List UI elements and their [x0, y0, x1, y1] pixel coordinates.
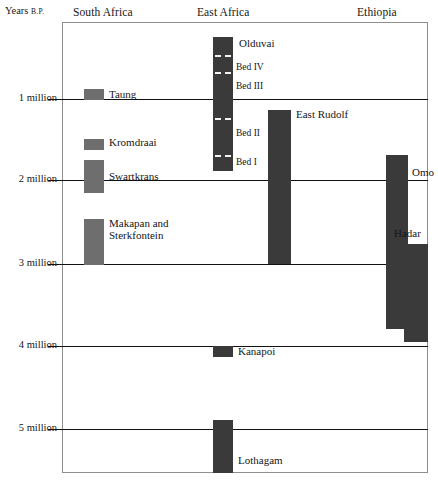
- bar-hadar: [404, 244, 428, 342]
- bar-label-taung: Taung: [109, 88, 136, 100]
- bar-taung: [84, 89, 104, 100]
- bed-divider-iii: [215, 72, 231, 74]
- bar-label-swartkrans: Swartkrans: [109, 170, 159, 182]
- bar-label-east-rudolf: East Rudolf: [296, 108, 348, 120]
- bar-label-lothagam: Lothagam: [238, 454, 283, 466]
- y-axis-caption-suffix: B.P.: [31, 7, 44, 16]
- chronology-chart: Years B.P. South Africa East Africa Ethi…: [0, 0, 438, 484]
- bar-label-olduvai: Olduvai: [239, 37, 274, 49]
- column-header-south-africa: South Africa: [73, 6, 133, 18]
- bed-divider-iv: [215, 55, 231, 57]
- tick-label-3-million: 3 million: [0, 257, 57, 268]
- bar-label-omo: Omo: [412, 166, 434, 178]
- bed-label-ii: Bed II: [236, 128, 260, 138]
- column-header-ethiopia: Ethiopia: [357, 6, 397, 18]
- bed-label-i: Bed I: [236, 157, 257, 167]
- tick-label-1-million: 1 million: [0, 92, 57, 103]
- gridline-1-million: [48, 99, 428, 100]
- tick-label-2-million: 2 million: [0, 173, 57, 184]
- gridline-5-million: [48, 429, 428, 430]
- column-header-east-africa: East Africa: [197, 6, 250, 18]
- bar-label-kanapoi: Kanapoi: [238, 345, 275, 357]
- bar-kromdraai: [84, 139, 104, 150]
- tick-label-4-million: 4 million: [0, 339, 57, 350]
- bar-lothagam: [213, 420, 233, 473]
- bed-label-iv: Bed IV: [236, 62, 264, 72]
- bar-east-rudolf: [268, 110, 291, 264]
- bar-label-makapan-sterkfontein: Makapan and Sterkfontein: [109, 217, 219, 242]
- bar-olduvai: [213, 37, 233, 171]
- bar-label-hadar: Hadar: [394, 227, 421, 239]
- bed-label-iii: Bed III: [236, 81, 263, 91]
- y-axis-caption-main: Years: [5, 5, 28, 16]
- tick-label-5-million: 5 million: [0, 422, 57, 433]
- bar-swartkrans: [84, 160, 104, 193]
- bar-kanapoi: [213, 346, 233, 357]
- bed-divider-ii: [215, 118, 231, 120]
- gridline-3-million: [48, 264, 428, 265]
- bar-makapan-sterkfontein: [84, 219, 104, 265]
- y-axis-caption: Years B.P.: [5, 5, 44, 16]
- bed-divider-i: [215, 155, 231, 157]
- gridline-2-million: [48, 180, 428, 181]
- bar-label-kromdraai: Kromdraai: [109, 136, 157, 148]
